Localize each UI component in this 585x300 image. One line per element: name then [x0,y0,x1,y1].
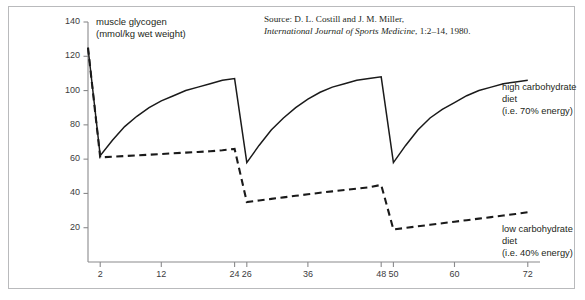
series-high-carb [88,48,528,163]
chart-axes [88,22,540,262]
y-tick-label: 80 [46,119,80,129]
chart-canvas [0,0,585,300]
x-tick-label: 12 [147,269,175,279]
x-tick-label: 2 [86,269,114,279]
x-tick-label: 60 [440,269,468,279]
x-tick-label: 72 [514,269,542,279]
y-tick-label: 140 [46,16,80,26]
x-tick-label: 50 [379,269,407,279]
x-tick-label: 26 [233,269,261,279]
y-tick-label: 20 [46,222,80,232]
y-tick-label: 120 [46,50,80,60]
x-tick-label: 36 [294,269,322,279]
y-tick-label: 40 [46,187,80,197]
y-tick-label: 60 [46,153,80,163]
chart-tick-marks [84,22,528,267]
chart-series-group [88,48,528,230]
series-low-carb [88,48,528,230]
y-tick-label: 100 [46,85,80,95]
